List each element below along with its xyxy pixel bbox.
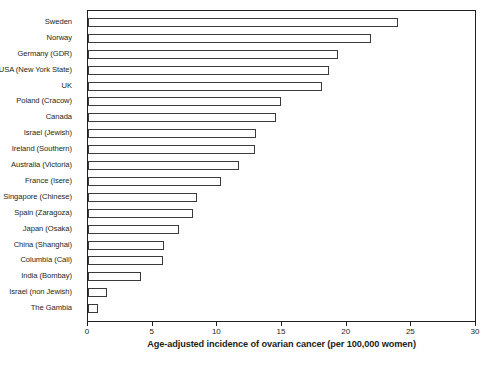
bar (88, 50, 338, 59)
x-tick-label: 5 (149, 327, 153, 336)
category-label: The Gambia (31, 302, 72, 313)
bar-row (88, 221, 476, 238)
bar-row (88, 93, 476, 110)
bar (88, 161, 239, 170)
category-label: Japan (Osaka) (23, 223, 72, 234)
bar (88, 225, 179, 234)
x-tick-mark (475, 322, 476, 326)
category-label: Germany (GDR) (17, 48, 72, 59)
x-tick-mark (152, 322, 153, 326)
bar-row (88, 237, 476, 254)
bar (88, 82, 322, 91)
x-tick-label: 0 (85, 327, 89, 336)
x-axis-title: Age-adjusted incidence of ovarian cancer… (87, 339, 476, 349)
bar-row (88, 30, 476, 47)
category-label: China (Shanghai) (14, 239, 72, 250)
x-tick-label: 20 (341, 327, 350, 336)
bar (88, 272, 141, 281)
category-label: Spain (Zaragoza) (14, 207, 72, 218)
category-label: Israel (non Jewish) (9, 286, 72, 297)
bar (88, 34, 371, 43)
bar (88, 18, 398, 27)
x-tick-mark (410, 322, 411, 326)
bar (88, 256, 163, 265)
category-label: UK (62, 80, 72, 91)
bar-row (88, 78, 476, 95)
bar-row (88, 46, 476, 63)
category-label: Poland (Cracow) (16, 95, 72, 106)
x-tick-mark (281, 322, 282, 326)
bar (88, 177, 221, 186)
x-tick-mark (216, 322, 217, 326)
x-tick-mark (346, 322, 347, 326)
bar-row (88, 173, 476, 190)
category-label: India (Bombay) (21, 270, 72, 281)
bar-row (88, 284, 476, 301)
category-label: Columbia (Cali) (20, 254, 72, 265)
bars-container (88, 11, 476, 321)
category-label: France (Isere) (25, 175, 72, 186)
bar-row (88, 157, 476, 174)
bar-row (88, 189, 476, 206)
bar-row (88, 109, 476, 126)
bar (88, 129, 256, 138)
category-label: Ireland (Southern) (12, 143, 72, 154)
bar-row (88, 125, 476, 142)
category-axis-labels: SwedenNorwayGermany (GDR)USA (New York S… (0, 11, 84, 321)
bar-row (88, 300, 476, 317)
bar (88, 145, 255, 154)
category-label: Sweden (45, 16, 72, 27)
category-label: USA (New York State) (0, 64, 72, 75)
bar (88, 209, 193, 218)
bar (88, 304, 98, 313)
bar (88, 113, 276, 122)
x-tick-mark (87, 322, 88, 326)
bar (88, 241, 164, 250)
category-label: Canada (46, 111, 72, 122)
category-label: Norway (47, 32, 72, 43)
x-tick-label: 10 (212, 327, 221, 336)
category-label: Israel (Jewish) (24, 127, 72, 138)
category-label: Singapore (Chinese) (3, 191, 72, 202)
bar (88, 66, 329, 75)
x-tick-label: 30 (471, 327, 480, 336)
bar-row (88, 62, 476, 79)
bar-row (88, 14, 476, 31)
bar-row (88, 205, 476, 222)
ovarian-cancer-incidence-chart: SwedenNorwayGermany (GDR)USA (New York S… (0, 0, 496, 367)
x-tick-label: 15 (277, 327, 286, 336)
bar-row (88, 141, 476, 158)
bar (88, 288, 107, 297)
x-tick-label: 25 (406, 327, 415, 336)
bar (88, 97, 281, 106)
category-label: Australia (Victoria) (11, 159, 72, 170)
bar-row (88, 268, 476, 285)
bar (88, 193, 197, 202)
bar-row (88, 252, 476, 269)
